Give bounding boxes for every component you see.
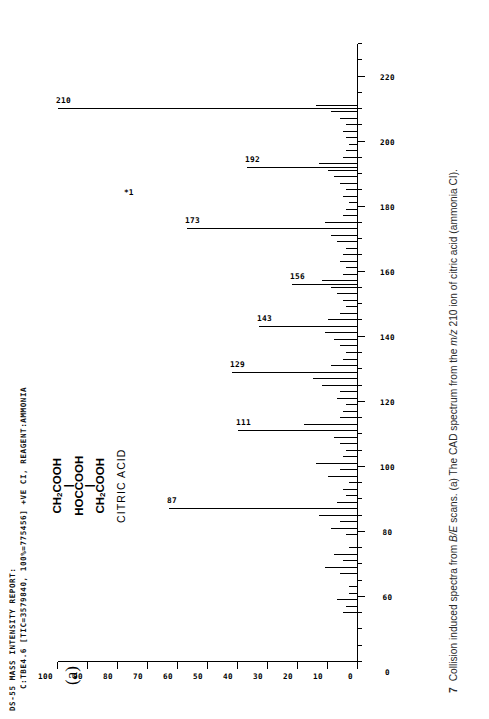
spectrum-peak (349, 482, 358, 483)
x-tick-label: 220 (380, 72, 395, 81)
spectrum-peak (169, 508, 358, 509)
spectrum-peak (334, 339, 358, 340)
y-axis-line (58, 661, 358, 662)
spectrum-peak (346, 267, 358, 268)
x-tick-minor (358, 124, 362, 125)
caption-post: 210 ion of citric acid (ammonia CI). (448, 169, 459, 329)
x-tick-label: 120 (380, 397, 395, 406)
spectrum-peak (343, 131, 358, 132)
y-tick (237, 662, 238, 669)
spectrum-peak (349, 547, 358, 548)
spectrum-peak (346, 150, 358, 151)
spectrum-peak (337, 293, 358, 294)
peak-label: 87 (167, 496, 177, 505)
x-tick-minor (358, 450, 362, 451)
x-tick-minor (358, 498, 362, 499)
spectrum-peak (340, 469, 358, 470)
y-tick (117, 662, 118, 669)
x-tick-label: 60 (383, 592, 393, 601)
spectrum-peak (313, 378, 358, 379)
x-tick-minor (358, 628, 362, 629)
y-tick-label: 30 (253, 672, 263, 681)
figure-caption: 7Collision induced spectra from B/E scan… (448, 13, 459, 693)
y-tick-label: 80 (103, 672, 113, 681)
x-tick-label: 180 (380, 202, 395, 211)
x-tick-minor (358, 417, 362, 418)
spectrum-peak (343, 359, 358, 360)
figure-page: DS-55 MASS INTENSITY REPORT: C:TBE4.6 [T… (0, 0, 489, 719)
spectrum-peak (340, 443, 358, 444)
spectrum-peak (343, 157, 358, 158)
spectrum-peak (337, 398, 358, 399)
peak-label: 111 (236, 418, 251, 427)
spectrum-peak (340, 183, 358, 184)
x-tick (358, 531, 365, 532)
spectrum-peak (346, 306, 358, 307)
figure-number: 7 (448, 687, 459, 693)
spectrum-peak (328, 170, 358, 171)
x-tick-minor (358, 303, 362, 304)
x-tick-minor (358, 661, 362, 662)
y-tick-label: 20 (283, 672, 293, 681)
y-tick (297, 662, 298, 669)
spectrum-peak (319, 515, 358, 516)
spectrum-peak (343, 274, 358, 275)
spectrum-peak (331, 528, 358, 529)
spectrum-peak (319, 163, 358, 164)
y-tick-label: 0 (348, 672, 353, 681)
spectrum-peak (337, 241, 358, 242)
y-tick-label: 50 (193, 672, 203, 681)
spectrum-peak (346, 495, 358, 496)
spectrum-peak (340, 118, 358, 119)
spectrum-peak (187, 228, 358, 229)
spectrum-peak (346, 209, 358, 210)
y-tick (177, 662, 178, 669)
caption-italic-be: B/E (448, 526, 459, 542)
caption-italic-mz: m/z (448, 329, 459, 345)
x-tick-minor (358, 433, 362, 434)
spectrum-peak (343, 411, 358, 412)
x-tick-minor (358, 238, 362, 239)
x-tick-minor (358, 173, 362, 174)
spectrum-peak (343, 215, 358, 216)
spectrum-peak (322, 280, 358, 281)
spectrum-peak (346, 450, 358, 451)
spectrum-peak (349, 202, 358, 203)
spectrum-peak (304, 424, 358, 425)
spectrum-peak (349, 586, 358, 587)
caption-mid: scans. (a) The CAD spectrum from the (448, 346, 459, 526)
spectrum-peak (343, 560, 358, 561)
spectrum-peak (334, 554, 358, 555)
x-tick (358, 336, 365, 337)
spectrum-peak (340, 261, 358, 262)
y-tick-label: 70 (133, 672, 143, 681)
x-tick-minor (358, 222, 362, 223)
y-tick (147, 662, 148, 669)
peak-label: 192 (245, 155, 260, 164)
spectrum-peak (58, 108, 358, 109)
y-tick-label: 90 (73, 672, 83, 681)
x-tick (358, 401, 365, 402)
x-tick-label: 100 (380, 462, 395, 471)
spectrum-peak (292, 284, 358, 285)
x-tick (358, 76, 365, 77)
spectrum-peak (340, 521, 358, 522)
spectrum-peak (325, 222, 358, 223)
spectrum-peak (316, 105, 358, 106)
spectrum-peak (346, 404, 358, 405)
spectrum-peak (346, 352, 358, 353)
spectrum-peak (325, 567, 358, 568)
x-tick-minor (358, 157, 362, 158)
spectrum-peak (328, 319, 358, 320)
spectrum-peak (337, 502, 358, 503)
x-tick-minor (358, 515, 362, 516)
x-tick-minor (358, 108, 362, 109)
spectrum-peak (343, 489, 358, 490)
x-tick-label: 140 (380, 332, 395, 341)
x-tick-label: 80 (383, 527, 393, 536)
spectrum-peak (232, 372, 358, 373)
spectrum-peak (331, 287, 358, 288)
y-tick (57, 662, 58, 669)
spectrum-peak (346, 534, 358, 535)
spectrum-peak (331, 365, 358, 366)
